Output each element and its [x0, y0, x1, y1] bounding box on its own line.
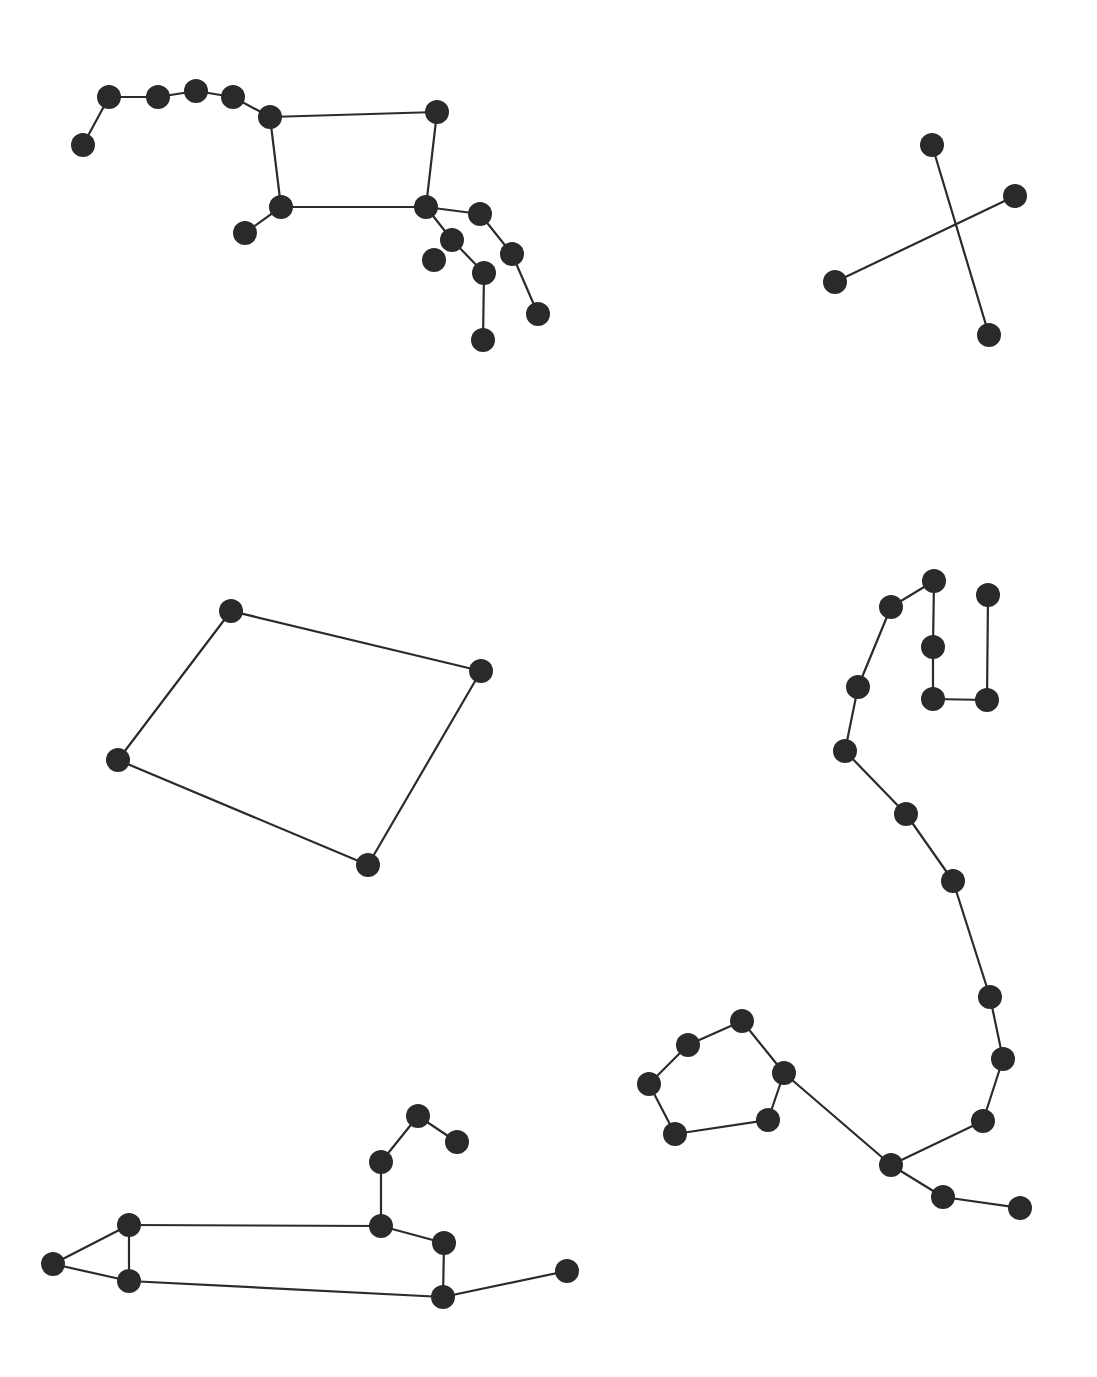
- star-node: [971, 1109, 995, 1133]
- star-node: [432, 1231, 456, 1255]
- star-node: [526, 302, 550, 326]
- constellation-line: [835, 196, 1015, 282]
- star-node: [922, 569, 946, 593]
- star-node: [676, 1033, 700, 1057]
- star-node: [219, 599, 243, 623]
- star-node: [921, 687, 945, 711]
- star-node: [406, 1104, 430, 1128]
- star-node: [637, 1072, 661, 1096]
- star-node: [106, 748, 130, 772]
- star-node: [146, 85, 170, 109]
- star-node: [846, 675, 870, 699]
- star-node: [471, 328, 495, 352]
- star-node: [269, 195, 293, 219]
- star-node: [991, 1047, 1015, 1071]
- star-node: [894, 802, 918, 826]
- constellation-line: [675, 1120, 768, 1134]
- star-node: [879, 595, 903, 619]
- star-node: [772, 1061, 796, 1085]
- star-node: [823, 270, 847, 294]
- constellation-line: [118, 611, 231, 760]
- star-node: [414, 195, 438, 219]
- star-node: [555, 1259, 579, 1283]
- star-node: [941, 869, 965, 893]
- star-node: [71, 133, 95, 157]
- constellation-line: [953, 881, 990, 997]
- constellation-line: [858, 607, 891, 687]
- star-node: [472, 261, 496, 285]
- star-node: [233, 221, 257, 245]
- star-node: [756, 1108, 780, 1132]
- constellation-cross: [823, 133, 1027, 347]
- star-node: [879, 1153, 903, 1177]
- star-node: [921, 635, 945, 659]
- star-node: [41, 1252, 65, 1276]
- star-node: [931, 1185, 955, 1209]
- constellation-big-dipper-ursa-major: [71, 79, 550, 352]
- star-node: [422, 248, 446, 272]
- star-node: [977, 323, 1001, 347]
- constellation-line: [906, 814, 953, 881]
- star-node: [369, 1150, 393, 1174]
- constellation-line: [987, 595, 988, 700]
- star-node: [920, 133, 944, 157]
- star-node: [440, 228, 464, 252]
- star-node: [1003, 184, 1027, 208]
- star-node: [975, 688, 999, 712]
- constellation-scorpius: [637, 569, 1032, 1220]
- star-node: [500, 242, 524, 266]
- star-node: [445, 1130, 469, 1154]
- star-node: [117, 1269, 141, 1293]
- star-node: [369, 1214, 393, 1238]
- star-node: [663, 1122, 687, 1146]
- constellation-line: [784, 1073, 891, 1165]
- star-node: [469, 659, 493, 683]
- constellation-line: [53, 1225, 129, 1264]
- constellation-line: [426, 112, 437, 207]
- constellation-leo: [41, 1104, 579, 1309]
- constellation-line: [845, 751, 906, 814]
- star-node: [356, 853, 380, 877]
- star-node: [833, 739, 857, 763]
- constellation-line: [231, 611, 481, 671]
- constellation-line: [129, 1281, 443, 1297]
- star-node: [221, 85, 245, 109]
- star-node: [97, 85, 121, 109]
- star-node: [258, 105, 282, 129]
- constellation-line: [118, 760, 368, 865]
- star-node: [976, 583, 1000, 607]
- star-node: [431, 1285, 455, 1309]
- star-node: [730, 1009, 754, 1033]
- star-node: [1008, 1196, 1032, 1220]
- constellation-line: [129, 1225, 381, 1226]
- constellation-line: [270, 112, 437, 117]
- constellation-line: [443, 1271, 567, 1297]
- star-node: [978, 985, 1002, 1009]
- constellation-line: [891, 1121, 983, 1165]
- constellation-line: [932, 145, 989, 335]
- star-node: [468, 202, 492, 226]
- star-node: [117, 1213, 141, 1237]
- constellation-quadrilateral: [106, 599, 493, 877]
- constellation-line: [270, 117, 281, 207]
- star-node: [425, 100, 449, 124]
- constellation-canvas: [0, 0, 1097, 1377]
- constellation-line: [368, 671, 481, 865]
- star-node: [184, 79, 208, 103]
